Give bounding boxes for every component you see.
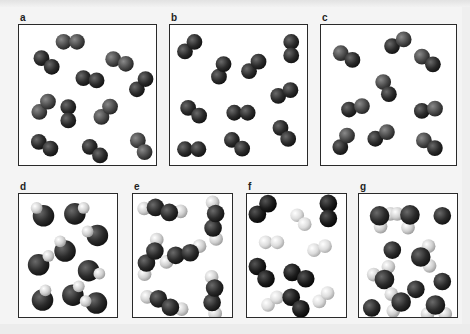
- diatomic-atom: [381, 86, 397, 102]
- diatomic-atom: [177, 141, 193, 157]
- panel-box-g: [358, 193, 458, 318]
- diatomic-atom: [292, 300, 310, 317]
- small-atom: [82, 226, 94, 238]
- diatomic-atom: [92, 148, 108, 164]
- diatomic-atom: [40, 94, 56, 110]
- central-atom: [411, 247, 431, 267]
- central-atom: [162, 298, 180, 316]
- panel-box-b: [169, 24, 308, 166]
- panel-label-e: e: [134, 181, 140, 192]
- panel-label-c: c: [322, 12, 328, 23]
- single-atom: [384, 241, 402, 259]
- single-atom: [363, 299, 381, 317]
- small-atom: [78, 202, 90, 214]
- diatomic-atom: [339, 128, 355, 144]
- central-atom: [160, 204, 178, 222]
- central-atom: [426, 295, 446, 315]
- diatomic-atom: [379, 124, 395, 140]
- central-atom: [206, 279, 224, 297]
- small-atom: [73, 280, 85, 292]
- diatomic-atom: [318, 239, 332, 253]
- central-atom: [391, 292, 411, 312]
- central-atom: [207, 205, 225, 223]
- panel-label-a: a: [20, 12, 26, 23]
- single-atom: [407, 280, 425, 298]
- small-atom: [43, 250, 55, 262]
- diatomic-atom: [297, 270, 315, 288]
- diatomic-atom: [354, 98, 370, 114]
- diatomic-atom: [396, 32, 412, 48]
- diatomic-atom: [187, 34, 203, 50]
- diatomic-atom: [56, 34, 72, 50]
- small-atom: [31, 202, 43, 214]
- panel-box-c: [320, 24, 457, 166]
- diatomic-atom: [280, 131, 296, 147]
- panel-label-b: b: [171, 12, 177, 23]
- diatomic-atom: [240, 105, 256, 121]
- diatomic-atom: [283, 47, 299, 63]
- central-atom: [181, 244, 199, 262]
- diatomic-atom: [102, 99, 118, 115]
- diatomic-atom: [191, 141, 207, 157]
- page-bottom-margin: [0, 324, 470, 334]
- panel-box-a: [18, 24, 157, 166]
- diatomic-atom: [425, 56, 441, 72]
- central-atom: [146, 242, 164, 260]
- diatomic-atom: [191, 108, 207, 124]
- diatomic-atom: [270, 235, 284, 249]
- diatomic-atom: [138, 71, 154, 87]
- diatomic-atom: [137, 144, 153, 160]
- cut-off-header: [0, 0, 470, 7]
- small-atom: [54, 235, 66, 247]
- panel-label-g: g: [360, 181, 366, 192]
- diatomic-atom: [216, 56, 232, 72]
- diatomic-atom: [89, 73, 105, 89]
- diatomic-atom: [298, 217, 312, 231]
- panel-label-d: d: [20, 181, 26, 192]
- diatomic-atom: [43, 141, 59, 157]
- panel-box-e: [132, 193, 233, 318]
- small-atom: [93, 268, 105, 280]
- panel-label-f: f: [248, 181, 251, 192]
- diatomic-atom: [75, 70, 91, 86]
- central-atom: [370, 206, 390, 226]
- diatomic-atom: [345, 52, 361, 68]
- diatomic-atom: [427, 101, 443, 117]
- central-atom: [400, 205, 420, 225]
- diatomic-atom: [259, 235, 273, 249]
- single-atom: [433, 273, 451, 291]
- diatomic-atom: [69, 34, 85, 50]
- small-atom: [80, 295, 92, 307]
- diatomic-atom: [234, 141, 250, 157]
- panel-box-d: [18, 193, 118, 318]
- central-atom: [375, 270, 395, 290]
- diatomic-atom: [257, 270, 275, 288]
- diatomic-atom: [44, 59, 60, 75]
- diatomic-atom: [118, 56, 134, 72]
- diatomic-atom: [259, 195, 277, 213]
- diatomic-atom: [270, 290, 284, 304]
- panel-box-f: [246, 193, 347, 318]
- single-atom: [433, 207, 451, 225]
- diatomic-atom: [283, 82, 299, 98]
- small-atom: [40, 284, 52, 296]
- diatomic-atom: [427, 140, 443, 156]
- diatomic-atom: [414, 103, 430, 119]
- diatomic-atom: [320, 210, 338, 228]
- diatomic-atom: [251, 54, 267, 70]
- diatomic-atom: [321, 286, 335, 300]
- diatomic-atom: [60, 113, 76, 129]
- diatomic-atom: [60, 99, 76, 115]
